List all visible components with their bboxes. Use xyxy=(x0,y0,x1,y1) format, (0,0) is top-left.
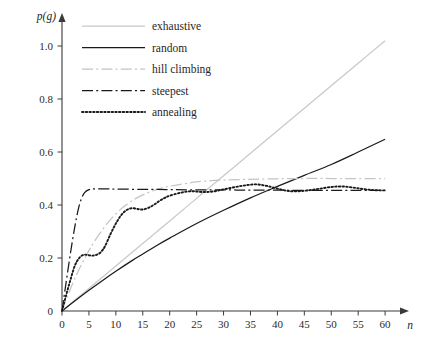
series-line-hill-climbing xyxy=(62,178,385,311)
x-tick-label: 60 xyxy=(380,318,392,330)
y-tick-label: 0.2 xyxy=(39,252,53,264)
y-tick-label: 0 xyxy=(48,305,54,317)
legend-label-annealing: annealing xyxy=(152,106,197,119)
series-line-annealing xyxy=(62,184,385,311)
y-axis-ticks: 00.20.40.60.81.0 xyxy=(39,40,62,317)
x-tick-label: 45 xyxy=(299,318,311,330)
x-tick-label: 15 xyxy=(137,318,149,330)
legend-label-hill-climbing: hill climbing xyxy=(152,63,211,76)
x-tick-label: 5 xyxy=(86,318,92,330)
legend-label-random: random xyxy=(152,42,187,54)
y-axis-label: p(g) xyxy=(36,10,56,23)
x-tick-label: 55 xyxy=(353,318,365,330)
y-tick-label: 0.8 xyxy=(39,93,53,105)
x-tick-label: 20 xyxy=(164,318,176,330)
x-tick-label: 30 xyxy=(218,318,230,330)
x-tick-label: 25 xyxy=(191,318,203,330)
series-line-random xyxy=(62,139,385,311)
x-axis-label: n xyxy=(407,319,413,331)
x-tick-label: 35 xyxy=(245,318,257,330)
x-tick-label: 10 xyxy=(110,318,122,330)
series-group xyxy=(62,41,385,311)
x-tick-label: 50 xyxy=(326,318,338,330)
y-axis-arrowhead xyxy=(58,13,65,22)
legend-label-exhaustive: exhaustive xyxy=(152,20,201,32)
line-chart: 051015202530354045505560 00.20.40.60.81.… xyxy=(0,0,423,339)
chart-legend: exhaustiverandomhill climbingsteepestann… xyxy=(82,20,211,119)
x-axis-arrowhead xyxy=(400,307,409,314)
y-tick-label: 1.0 xyxy=(39,40,53,52)
y-tick-label: 0.4 xyxy=(39,199,53,211)
y-tick-label: 0.6 xyxy=(39,146,53,158)
legend-label-steepest: steepest xyxy=(152,85,189,98)
x-axis-ticks: 051015202530354045505560 xyxy=(59,311,391,330)
x-tick-label: 0 xyxy=(59,318,65,330)
series-line-steepest xyxy=(62,189,385,311)
x-tick-label: 40 xyxy=(272,318,284,330)
chart-container: 051015202530354045505560 00.20.40.60.81.… xyxy=(0,0,423,339)
series-line-exhaustive xyxy=(62,41,385,311)
